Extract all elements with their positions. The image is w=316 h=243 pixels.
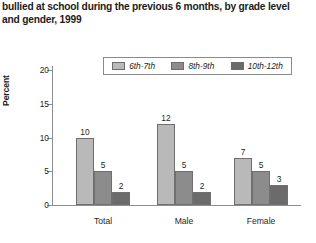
x-axis-category-label: Female xyxy=(247,216,276,226)
chart-bar-value-label: 5 xyxy=(259,160,264,170)
chart-bar: 5 xyxy=(94,171,112,205)
chart-bar: 12 xyxy=(157,124,175,205)
chart-bar-value-label: 2 xyxy=(119,181,124,191)
chart-bar-value-label: 10 xyxy=(80,127,89,137)
chart-bar-value-label: 7 xyxy=(241,147,246,157)
y-axis-tick-label: 20 xyxy=(40,65,49,75)
chart-bar-value-label: 5 xyxy=(182,160,187,170)
y-axis-tick-label: 15 xyxy=(40,99,49,109)
y-axis-tick-label: 0 xyxy=(44,200,49,210)
y-axis-tick-label: 5 xyxy=(44,166,49,176)
chart-bar: 5 xyxy=(252,171,270,205)
page-title-line-1: bullied at school during the previous 6 … xyxy=(2,0,312,13)
y-axis-tick-label: 10 xyxy=(40,133,49,143)
chart-bar-value-label: 2 xyxy=(200,181,205,191)
y-axis-title: Percent xyxy=(1,75,11,106)
chart-bar-value-label: 12 xyxy=(161,113,170,123)
chart-plot-area: 05101520 10521252753 TotalMaleFemale xyxy=(52,66,301,206)
chart-bar: 5 xyxy=(175,171,193,205)
chart-bar: 2 xyxy=(112,192,130,206)
chart-bar: 7 xyxy=(234,158,252,205)
y-axis-line xyxy=(52,66,53,206)
chart-bar: 3 xyxy=(270,185,288,205)
page-title: bullied at school during the previous 6 … xyxy=(2,0,312,26)
page-title-line-2: and gender, 1999 xyxy=(2,13,312,26)
chart-bar: 2 xyxy=(193,192,211,206)
chart-bar-value-label: 5 xyxy=(101,160,106,170)
x-axis-line xyxy=(52,205,301,206)
x-axis-category-label: Male xyxy=(175,216,194,226)
chart-bar-value-label: 3 xyxy=(277,174,282,184)
x-axis-category-label: Total xyxy=(94,216,112,226)
chart-bar: 10 xyxy=(76,138,94,206)
